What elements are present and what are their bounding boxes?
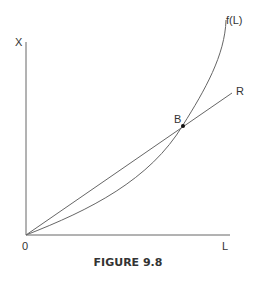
figure-diagram: X L 0 f(L) R B FIGURE 9.8 <box>0 0 255 282</box>
x-axis-label: L <box>222 240 228 252</box>
point-label: B <box>174 113 181 125</box>
origin-label: 0 <box>22 240 28 252</box>
curve-label: f(L) <box>226 14 243 26</box>
point-b-marker <box>181 124 185 128</box>
curve-f-of-l <box>26 20 226 235</box>
ray-label: R <box>236 85 244 97</box>
figure-caption: FIGURE 9.8 <box>94 256 163 269</box>
ray-r <box>26 93 232 235</box>
y-axis-label: X <box>15 36 23 48</box>
